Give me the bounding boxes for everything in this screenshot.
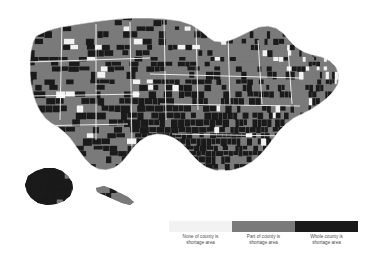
county-cell [191,138,196,143]
legend-swatch-none [169,221,232,232]
county-cell [309,85,313,92]
county-cell [126,39,133,45]
county-cell [43,50,49,56]
county-cell [204,113,211,120]
county-cell [63,26,71,31]
county-cell [293,85,296,91]
county-cell [46,72,57,80]
county-cell [280,50,284,57]
county-cell [329,79,331,84]
county-cell [212,151,216,157]
county-cell [165,62,173,66]
county-cell [328,66,332,71]
county-cell [238,62,244,67]
county-cell [272,119,275,127]
county-cell [216,151,223,156]
county-cell [207,66,214,70]
county-cell [223,91,229,98]
county-cell [139,62,144,67]
county-cell [66,79,73,84]
county-cell [233,72,237,80]
county-cell [276,113,281,119]
county-cell [35,85,41,91]
county-cell [264,113,269,120]
county-cell [164,91,172,97]
county-cell [200,66,207,71]
county-cell [237,138,240,146]
county-cell [273,50,276,56]
county-cell [114,66,124,70]
county-cell [204,119,209,125]
county-cell [67,106,76,112]
county-cell [149,127,156,132]
county-cell [175,79,180,84]
county-cell [95,151,102,157]
county-cell [99,79,109,83]
county-cell [252,138,257,146]
county-cell [254,31,257,37]
county-cell [41,181,52,189]
county-cell [332,85,334,90]
county-cell [322,79,326,84]
county-cell [201,151,205,155]
county-cell [98,98,104,106]
county-cell [287,98,292,105]
county-cell [268,62,273,66]
county-cell [122,50,128,55]
county-cell [121,62,129,65]
county-cell [61,106,67,112]
county-cell [49,57,58,60]
county-cell [265,39,268,46]
county-cell [230,45,235,49]
county-cell [264,79,269,84]
county-cell [305,98,309,104]
county-cell [130,26,136,30]
county-cell [268,50,273,57]
county-cell [183,50,188,57]
county-cell [39,57,49,60]
county-cell [236,119,239,127]
county-cell [84,106,91,113]
county-cell [243,85,246,91]
county-cell [136,20,143,26]
county-cell [263,62,268,66]
county-cell [273,62,277,67]
county-cell [242,91,247,97]
county-cell [317,72,320,78]
county-cell [165,127,171,133]
county-cell [250,31,254,38]
legend: None of county is shortage area Part of … [169,221,358,257]
county-cell [130,20,136,26]
county-cell [113,98,119,106]
county-cell [296,50,299,56]
county-cell [247,79,253,85]
county-cell [241,72,246,80]
county-cell [212,85,216,92]
county-cell [308,72,312,81]
county-cell [170,50,177,55]
county-cell [185,79,191,83]
county-cell [261,127,264,132]
county-cell [238,113,243,119]
county-cell [62,181,68,190]
county-cell [309,98,312,105]
legend-label-whole: Whole county is shortage area [295,234,358,246]
county-cell [210,133,216,138]
county-cell [106,164,115,168]
county-cell [194,146,199,151]
county-cell [151,113,158,119]
county-cell [109,31,116,38]
county-cell [324,66,327,70]
county-cell [252,66,257,71]
county-cell [98,119,108,127]
county-cell [149,72,156,80]
county-cell [203,50,207,56]
county-cell [236,57,241,61]
county-cell [141,72,148,80]
county-cell [310,79,313,84]
county-cell [90,79,99,83]
county-cell [35,45,45,50]
county-cell [248,106,253,113]
county-cell [205,91,211,96]
county-cell [222,85,227,90]
